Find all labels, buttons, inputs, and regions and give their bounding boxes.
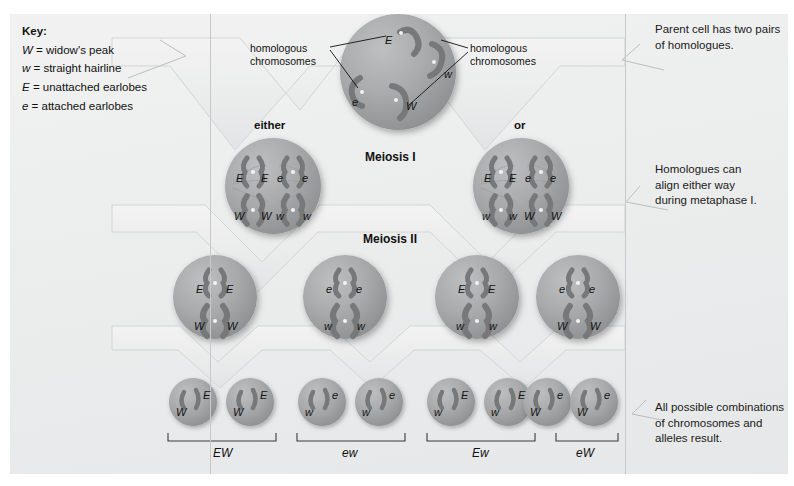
bracket-label-2: ew <box>342 446 357 460</box>
key-text-E: = unattached earlobes <box>33 81 147 93</box>
m1-either-top-3: e <box>277 172 283 184</box>
label-or: or <box>514 119 526 131</box>
caption-metaphase-line3: during metaphase I. <box>655 193 785 209</box>
key-entry-E: E = unattached earlobes <box>22 78 147 97</box>
gamete-7-hair: W <box>530 406 540 418</box>
key-text-W: = widow's peak <box>36 44 114 56</box>
stage-label-meiosis1: Meiosis I <box>365 150 416 164</box>
gamete-brackets <box>168 433 618 441</box>
caption-parent-line2: of homologues. <box>655 38 785 54</box>
key-entry-e: e = attached earlobes <box>22 97 147 116</box>
caption-result-line3: alleles result. <box>655 431 790 447</box>
m2-c1-bot-left: W <box>194 320 204 332</box>
m2-c3-bot-right: w <box>489 320 497 332</box>
gamete-3-ear: e <box>332 389 338 401</box>
m1-or-bot-3: W <box>524 210 534 222</box>
bracket-label-4: eW <box>576 446 594 460</box>
m1-or-top-3: e <box>525 172 531 184</box>
frame-bottom <box>0 474 794 486</box>
gamete-cell-8 <box>570 378 618 426</box>
m2-c4-top-right: e <box>589 283 595 295</box>
m1-or-top-4: e <box>550 172 556 184</box>
panel-divider-right <box>625 14 626 474</box>
parent-allele-E: E <box>385 34 392 46</box>
gamete-5-hair: w <box>434 406 442 418</box>
gamete-5-ear: E <box>461 389 468 401</box>
meiosis2-cell-1 <box>173 255 257 339</box>
stage-label-meiosis2: Meiosis II <box>363 232 417 246</box>
label-either: either <box>254 119 285 131</box>
gamete-2-hair: W <box>233 406 243 418</box>
gamete-1-ear: E <box>203 389 210 401</box>
bracket-label-3: Ew <box>472 446 489 460</box>
panel-divider-left <box>210 14 211 474</box>
m2-c2-top-right: e <box>356 283 362 295</box>
gamete-8-ear: e <box>604 389 610 401</box>
m2-c4-bot-left: W <box>557 320 567 332</box>
m2-c2-bot-left: w <box>324 320 332 332</box>
m1-either-bot-2: W <box>261 210 271 222</box>
meiosis2-cell-2 <box>303 255 387 339</box>
meiosis2-cell-4 <box>536 255 620 339</box>
key-entry-W: W = widow's peak <box>22 41 147 60</box>
caption-metaphase-line2: align either way <box>655 178 785 194</box>
m2-c3-bot-left: w <box>456 320 464 332</box>
caption-parent-line1: Parent cell has two pairs <box>655 22 785 38</box>
annotation-homologous-left: homologous chromosomes <box>250 42 316 68</box>
meiosis2-cells <box>173 255 620 339</box>
m1-or-bot-2: w <box>509 210 517 222</box>
m1-or-top-2: E <box>509 172 516 184</box>
annotation-homologous-right: homologous chromosomes <box>470 42 536 68</box>
m2-c3-top-right: E <box>488 283 495 295</box>
m2-c1-top-left: E <box>196 283 203 295</box>
caption-result-line2: of chromosomes and <box>655 416 790 432</box>
gamete-1-hair: W <box>176 406 186 418</box>
key-legend: Key: W = widow's peak w = straight hairl… <box>22 22 147 115</box>
annotation-homologous-right-line2: chromosomes <box>470 55 536 68</box>
gamete-4-ear: e <box>389 389 395 401</box>
m2-c1-top-right: E <box>226 283 233 295</box>
key-symbol-E: E <box>22 81 30 93</box>
m1-either-bot-4: w <box>303 210 311 222</box>
m1-either-bot-1: W <box>234 210 244 222</box>
gamete-3-hair: w <box>305 406 313 418</box>
key-text-w: = straight hairline <box>34 62 122 74</box>
caption-result-line1: All possible combinations <box>655 400 790 416</box>
parent-allele-e: e <box>352 96 358 108</box>
caption-metaphase: Homologues can align either way during m… <box>655 162 785 209</box>
gamete-cell-4 <box>355 378 403 426</box>
m1-either-top-2: E <box>261 172 268 184</box>
key-symbol-w: w <box>22 62 30 74</box>
m2-c1-bot-right: W <box>227 320 237 332</box>
gamete-cell-5 <box>427 378 475 426</box>
m2-c4-bot-right: W <box>590 320 600 332</box>
caption-result: All possible combinations of chromosomes… <box>655 400 790 447</box>
key-symbol-e: e <box>22 100 28 112</box>
m1-either-top-4: e <box>302 172 308 184</box>
parent-allele-w: w <box>444 68 452 80</box>
annotation-homologous-right-line1: homologous <box>470 42 536 55</box>
caption-parent-cell: Parent cell has two pairs of homologues. <box>655 22 785 53</box>
m1-either-bot-3: w <box>276 210 284 222</box>
m2-c2-bot-right: w <box>357 320 365 332</box>
gamete-cell-7 <box>523 378 571 426</box>
gamete-8-hair: W <box>577 406 587 418</box>
key-symbol-W: W <box>22 44 33 56</box>
m2-c4-top-left: e <box>559 283 565 295</box>
caption-metaphase-line1: Homologues can <box>655 162 785 178</box>
annotation-homologous-left-line1: homologous <box>250 42 316 55</box>
m1-or-bot-1: w <box>482 210 490 222</box>
key-entry-w: w = straight hairline <box>22 59 147 78</box>
frame-top <box>0 0 794 14</box>
annotation-homologous-left-line2: chromosomes <box>250 55 316 68</box>
bracket-label-1: EW <box>213 446 232 460</box>
frame-left <box>0 0 10 486</box>
gamete-6-hair: w <box>491 406 499 418</box>
gamete-6-ear: E <box>518 389 525 401</box>
gamete-cell-3 <box>298 378 346 426</box>
m1-or-top-1: E <box>484 172 491 184</box>
diagram-canvas: Key: W = widow's peak w = straight hairl… <box>0 0 794 486</box>
m1-either-top-1: E <box>236 172 243 184</box>
meiosis2-centromeres <box>213 281 580 323</box>
gamete-4-hair: w <box>362 406 370 418</box>
